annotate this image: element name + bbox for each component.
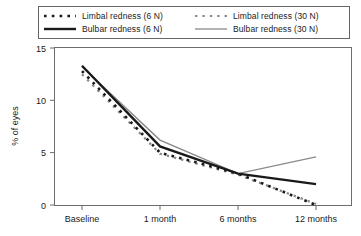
y-tick-label-5: 5 [41, 148, 46, 158]
series-line-limbal-30n [82, 66, 316, 184]
chart-figure: Limbal redness (6 N) Limbal redness (30 … [0, 0, 361, 236]
y-tick-label-10: 10 [36, 96, 46, 106]
y-tick-label-0: 0 [41, 201, 46, 211]
y-axis-title: % of eyes [10, 106, 20, 146]
series-line-bulbar-6n [82, 74, 316, 204]
series-line-bulbar-30n [82, 67, 316, 174]
x-tick-label-baseline: Baseline [65, 214, 100, 224]
series-line-limbal-6n [82, 71, 316, 205]
x-tick-label-1-month: 1 month [144, 214, 177, 224]
y-tick-label-15: 15 [36, 44, 46, 54]
y-axis-ticks [50, 48, 55, 205]
x-tick-label-6-months: 6 months [219, 214, 257, 224]
chart-plot-area: 15 10 5 0 % of eyes Baseline 1 month 6 m… [0, 0, 361, 236]
chart-svg: 15 10 5 0 % of eyes Baseline 1 month 6 m… [0, 0, 361, 236]
x-tick-label-12-months: 12 months [295, 214, 338, 224]
